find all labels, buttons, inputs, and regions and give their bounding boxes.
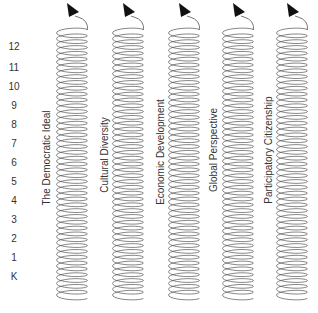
- arrowhead-icon: [67, 3, 79, 17]
- spiral-coil: [223, 3, 254, 300]
- strand-label-global-perspective: Global Perspective: [208, 108, 219, 192]
- arrowhead-icon: [233, 3, 245, 17]
- strand-label-democratic-ideal: The Democratic Ideal: [41, 110, 52, 205]
- arrowhead-icon: [179, 3, 191, 17]
- spiral-coil: [57, 3, 88, 300]
- spiral-coil: [113, 3, 144, 300]
- arrowhead-icon: [123, 3, 135, 17]
- arrowhead-icon: [287, 3, 299, 17]
- strand-label-cultural-diversity: Cultural Diversity: [99, 117, 110, 193]
- strand-label-participatory-citizenship: Participatory Citizenship: [263, 96, 274, 203]
- spiral-coil: [169, 3, 200, 300]
- spiral-coil: [277, 3, 308, 300]
- strand-label-economic-development: Economic Development: [155, 99, 166, 205]
